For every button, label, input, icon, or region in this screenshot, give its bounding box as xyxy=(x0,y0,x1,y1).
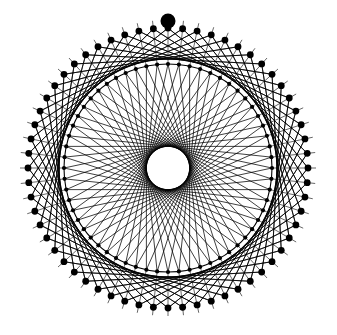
artwork-canvas xyxy=(0,0,337,335)
string-art-figure xyxy=(0,0,337,335)
highlight-node-group xyxy=(161,14,176,29)
